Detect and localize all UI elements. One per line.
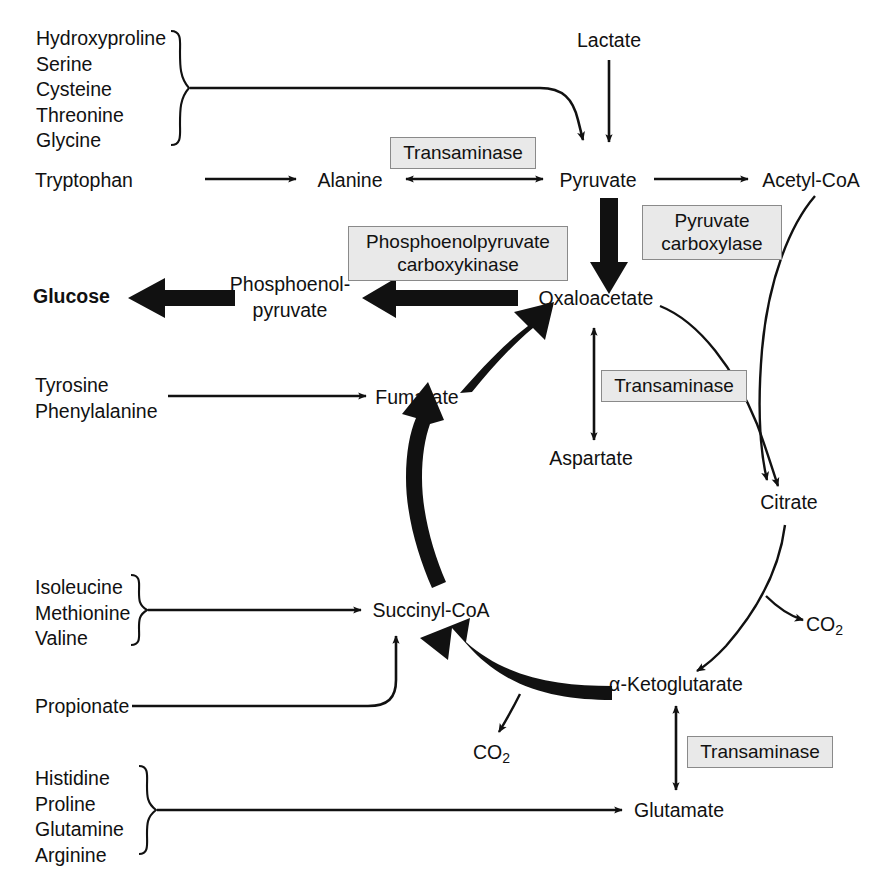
metabolite-co2-ketoglutarate: CO2 (473, 740, 510, 771)
amino-acid-item: Hydroxyproline (36, 26, 166, 52)
co2-text: CO (473, 741, 502, 763)
brace-to-succinylcoa (131, 575, 147, 645)
metabolite-glucose: Glucose (33, 284, 110, 309)
arrow-co2-succinylcoa-branch (499, 694, 520, 732)
enzyme-label: Transaminase (614, 375, 734, 396)
amino-acid-item: Serine (36, 52, 166, 78)
amino-acid-group-to-glutamate: Histidine Proline Glutamine Arginine (35, 766, 124, 868)
metabolite-alpha-ketoglutarate: α-Ketoglutarate (609, 672, 743, 697)
metabolite-aspartate: Aspartate (549, 446, 632, 471)
metabolite-phosphoenolpyruvate: Phosphoenol- pyruvate (230, 272, 350, 323)
amino-acid-item: Arginine (35, 843, 124, 869)
amino-acid-item: Threonine (36, 103, 166, 129)
enzyme-label-line1: Phosphoenolpyruvate (359, 230, 557, 253)
metabolite-alanine: Alanine (317, 168, 382, 193)
metabolite-oxaloacetate: Oxaloacetate (539, 286, 654, 311)
amino-acid-group-to-succinylcoa: Isoleucine Methionine Valine (35, 575, 130, 652)
co2-text: CO (806, 613, 835, 635)
enzyme-label-line2: carboxykinase (359, 253, 557, 276)
amino-acid-item: Histidine (35, 766, 124, 792)
metabolite-acetyl-coa: Acetyl-CoA (762, 168, 860, 193)
curve-citrate-to-ketoglutarate (697, 525, 785, 671)
amino-acid-group-to-fumarate: Tyrosine Phenylalanine (35, 373, 158, 424)
arrow-propionate-to-succinylcoa (132, 636, 396, 706)
arrow-aminoacids-to-pyruvate (190, 88, 583, 140)
metabolite-citrate: Citrate (760, 490, 817, 515)
enzyme-pep-carboxykinase: Phosphoenolpyruvate carboxykinase (348, 226, 568, 281)
metabolite-succinyl-coa: Succinyl-CoA (372, 598, 489, 623)
amino-acid-item: Phenylalanine (35, 399, 158, 425)
arrow-co2-ketoglutarate-branch (766, 596, 803, 620)
enzyme-label-line1: Pyruvate (653, 209, 771, 232)
brace-to-pyruvate (171, 31, 189, 145)
arrow-fumarate-to-oxaloacetate (460, 302, 554, 393)
amino-acid-item: Isoleucine (35, 575, 130, 601)
metabolite-pep-line2: pyruvate (230, 298, 350, 324)
metabolite-co2-citrate: CO2 (806, 612, 843, 643)
amino-acid-item: Methionine (35, 601, 130, 627)
metabolite-tryptophan: Tryptophan (35, 168, 133, 193)
metabolite-glutamate: Glutamate (634, 798, 724, 823)
amino-acid-item: Glutamine (35, 817, 124, 843)
metabolite-lactate: Lactate (577, 28, 641, 53)
metabolite-fumarate: Fumarate (375, 385, 458, 410)
arrow-oxaloacetate-to-pep (362, 278, 518, 318)
amino-acid-item: Cysteine (36, 77, 166, 103)
arrow-pyruvate-to-oxaloacetate (590, 198, 628, 294)
co2-subscript: 2 (835, 622, 843, 638)
brace-to-glutamate (139, 766, 156, 854)
enzyme-transaminase-aspartate: Transaminase (601, 370, 747, 402)
co2-subscript: 2 (502, 750, 510, 766)
arrow-ketoglutarate-to-succinylcoa (420, 618, 612, 700)
amino-acid-item: Valine (35, 626, 130, 652)
enzyme-transaminase-alanine: Transaminase (390, 137, 536, 169)
amino-acid-item: Glycine (36, 128, 166, 154)
metabolite-pep-line1: Phosphoenol- (230, 272, 350, 298)
enzyme-label-line2: carboxylase (653, 232, 771, 255)
amino-acid-item: Tyrosine (35, 373, 158, 399)
enzyme-pyruvate-carboxylase: Pyruvate carboxylase (642, 205, 782, 260)
enzyme-label: Transaminase (403, 142, 523, 163)
arrow-pep-to-glucose (128, 278, 235, 318)
amino-acid-item: Proline (35, 792, 124, 818)
metabolite-pyruvate: Pyruvate (560, 168, 637, 193)
pathway-diagram: Hydroxyproline Serine Cysteine Threonine… (0, 0, 884, 882)
metabolite-propionate: Propionate (35, 694, 129, 719)
enzyme-label: Transaminase (700, 741, 820, 762)
arrow-succinylcoa-to-fumarate (402, 382, 446, 588)
amino-acid-group-to-pyruvate: Hydroxyproline Serine Cysteine Threonine… (36, 26, 166, 154)
enzyme-transaminase-glutamate: Transaminase (687, 736, 833, 768)
